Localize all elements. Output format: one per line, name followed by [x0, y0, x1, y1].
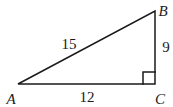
geometry-figure: A B C 15 12 9 [0, 0, 173, 107]
side-label-base: 12 [80, 89, 95, 105]
right-triangle-diagram: A B C 15 12 9 [0, 0, 173, 107]
triangle-outline [18, 11, 155, 84]
vertex-label-c: C [155, 91, 166, 107]
side-label-hypotenuse: 15 [62, 36, 77, 52]
vertex-label-b: B [158, 3, 167, 19]
side-label-height: 9 [162, 39, 170, 55]
vertex-label-a: A [5, 91, 16, 107]
right-angle-marker [143, 72, 155, 84]
